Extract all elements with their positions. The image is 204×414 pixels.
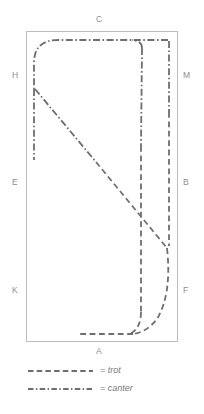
arena-letter-a: A xyxy=(96,347,102,356)
canter-path-group xyxy=(34,40,169,162)
trot-diagonal-lower xyxy=(96,162,167,248)
arena-letter-k: K xyxy=(12,286,18,295)
arena-letter-e: E xyxy=(12,178,18,187)
canter-inner-loop-curve xyxy=(132,40,142,48)
trot-path-group xyxy=(77,112,169,334)
canter-diagonal-upper xyxy=(35,89,96,162)
trot-inner-bottom-curve xyxy=(130,312,141,334)
trot-bottom-right-loop xyxy=(133,248,168,334)
canter-top-left-curve xyxy=(34,40,168,89)
arena-letter-b: B xyxy=(183,178,189,187)
legend-label-canter: = canter xyxy=(100,384,133,393)
arena-diagram-root: C H M E B K F A = trot = canter xyxy=(0,0,204,414)
legend-swatch-group xyxy=(28,371,93,389)
canter-inner-vertical xyxy=(141,48,142,146)
arena-canvas xyxy=(0,0,204,414)
arena-letter-m: M xyxy=(183,71,190,80)
arena-boundary xyxy=(27,32,178,342)
arena-letter-h: H xyxy=(12,71,18,80)
arena-letter-f: F xyxy=(183,286,188,295)
legend-label-trot: = trot xyxy=(100,366,121,375)
arena-letter-c: C xyxy=(96,15,102,24)
